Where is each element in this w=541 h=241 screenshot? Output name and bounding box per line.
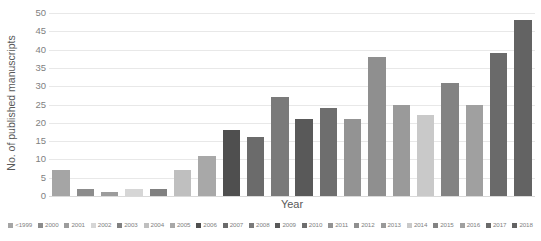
- legend-label: 2008: [256, 221, 269, 229]
- y-tick-label-5: 5: [18, 173, 46, 183]
- legend-label: 2006: [203, 221, 216, 229]
- legend-swatch-icon: [196, 223, 201, 228]
- legend-label: 2010: [309, 221, 322, 229]
- legend-label: 2007: [230, 221, 243, 229]
- legend-swatch-icon: [249, 223, 254, 228]
- y-tick-label-45: 45: [18, 26, 46, 36]
- legend-item-2006[interactable]: 2006: [196, 221, 216, 229]
- legend-swatch-icon: [64, 223, 69, 228]
- legend-swatch-icon: [407, 223, 412, 228]
- legend-item-2005[interactable]: 2005: [170, 221, 190, 229]
- y-tick-label-20: 20: [18, 118, 46, 128]
- legend-item-2015[interactable]: 2015: [433, 221, 453, 229]
- y-tick-label-30: 30: [18, 81, 46, 91]
- legend-item-2000[interactable]: 2000: [38, 221, 58, 229]
- chart-legend: <199920002001200220032004200520062007200…: [0, 218, 541, 232]
- bar-2010[interactable]: [320, 108, 337, 196]
- y-tick-label-10: 10: [18, 154, 46, 164]
- bar-2012[interactable]: [368, 57, 385, 196]
- legend-item-2008[interactable]: 2008: [249, 221, 269, 229]
- legend-label: 2003: [124, 221, 137, 229]
- bar-2018[interactable]: [514, 20, 531, 196]
- legend-label: 2014: [414, 221, 427, 229]
- legend-item-2010[interactable]: 2010: [302, 221, 322, 229]
- legend-label: 2002: [98, 221, 111, 229]
- bar-2002[interactable]: [125, 189, 142, 196]
- legend-label: 2015: [440, 221, 453, 229]
- legend-swatch-icon: [302, 223, 307, 228]
- bar-2006[interactable]: [223, 130, 240, 196]
- legend-item-2004[interactable]: 2004: [144, 221, 164, 229]
- legend-swatch-icon: [170, 223, 175, 228]
- bars-layer: [49, 13, 535, 196]
- legend-label: 2017: [493, 221, 506, 229]
- legend-swatch-icon: [91, 223, 96, 228]
- bar-<1999[interactable]: [52, 170, 69, 196]
- y-tick-label-15: 15: [18, 136, 46, 146]
- legend-swatch-icon: [8, 223, 13, 228]
- legend-label: <1999: [15, 221, 32, 229]
- y-axis-title: No. of published manuscripts: [3, 3, 19, 203]
- y-tick-label-50: 50: [18, 8, 46, 18]
- legend-item-2007[interactable]: 2007: [223, 221, 243, 229]
- bar-2003[interactable]: [150, 189, 167, 196]
- bar-2011[interactable]: [344, 119, 361, 196]
- bar-2014[interactable]: [417, 115, 434, 196]
- legend-swatch-icon: [38, 223, 43, 228]
- bar-chart: No. of published manuscripts 50454035302…: [0, 0, 541, 241]
- bar-2015[interactable]: [441, 83, 458, 196]
- legend-label: 2004: [151, 221, 164, 229]
- legend-label: 2018: [519, 221, 532, 229]
- legend-label: 2016: [467, 221, 480, 229]
- x-axis-title: Year: [49, 196, 535, 212]
- bar-2004[interactable]: [174, 170, 191, 196]
- legend-swatch-icon: [144, 223, 149, 228]
- legend-item-2001[interactable]: 2001: [64, 221, 84, 229]
- plot-area: [49, 13, 535, 196]
- legend-item-2018[interactable]: 2018: [512, 221, 532, 229]
- legend-swatch-icon: [223, 223, 228, 228]
- y-tick-label-0: 0: [18, 191, 46, 201]
- bar-2008[interactable]: [271, 97, 288, 196]
- bar-2005[interactable]: [198, 156, 215, 196]
- bar-2017[interactable]: [490, 53, 507, 196]
- legend-swatch-icon: [486, 223, 491, 228]
- y-tick-label-40: 40: [18, 45, 46, 55]
- legend-label: 2012: [361, 221, 374, 229]
- legend-item-2013[interactable]: 2013: [381, 221, 401, 229]
- legend-swatch-icon: [354, 223, 359, 228]
- legend-item-2002[interactable]: 2002: [91, 221, 111, 229]
- legend-swatch-icon: [117, 223, 122, 228]
- bar-2013[interactable]: [393, 105, 410, 197]
- y-axis-tick-labels: 50454035302520151050: [18, 13, 46, 196]
- legend-swatch-icon: [328, 223, 333, 228]
- bar-2009[interactable]: [295, 119, 312, 196]
- legend-swatch-icon: [433, 223, 438, 228]
- legend-item-2003[interactable]: 2003: [117, 221, 137, 229]
- legend-item-<1999[interactable]: <1999: [8, 221, 32, 229]
- legend-item-2016[interactable]: 2016: [460, 221, 480, 229]
- y-tick-label-25: 25: [18, 100, 46, 110]
- bar-2007[interactable]: [247, 137, 264, 196]
- y-tick-label-35: 35: [18, 63, 46, 73]
- legend-label: 2013: [388, 221, 401, 229]
- legend-item-2014[interactable]: 2014: [407, 221, 427, 229]
- legend-label: 2009: [282, 221, 295, 229]
- legend-label: 2001: [71, 221, 84, 229]
- legend-swatch-icon: [460, 223, 465, 228]
- legend-item-2017[interactable]: 2017: [486, 221, 506, 229]
- legend-label: 2011: [335, 221, 348, 229]
- legend-item-2011[interactable]: 2011: [328, 221, 348, 229]
- legend-swatch-icon: [512, 223, 517, 228]
- legend-item-2009[interactable]: 2009: [275, 221, 295, 229]
- legend-swatch-icon: [275, 223, 280, 228]
- legend-item-2012[interactable]: 2012: [354, 221, 374, 229]
- legend-swatch-icon: [381, 223, 386, 228]
- bar-2000[interactable]: [77, 189, 94, 196]
- legend-label: 2005: [177, 221, 190, 229]
- bar-2016[interactable]: [466, 105, 483, 197]
- legend-label: 2000: [45, 221, 58, 229]
